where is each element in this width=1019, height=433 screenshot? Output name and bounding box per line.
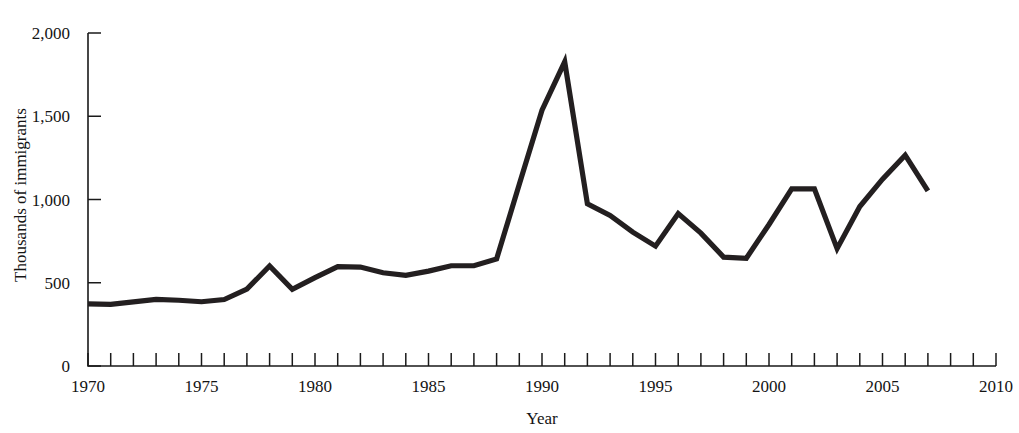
chart-canvas: 05001,0001,5002,000 19701975198019851990… bbox=[0, 0, 1019, 433]
x-tick-label: 1970 bbox=[71, 377, 105, 396]
y-axis-tick-labels: 05001,0001,5002,000 bbox=[32, 24, 70, 376]
x-tick-label: 1980 bbox=[298, 377, 332, 396]
y-tick-label: 500 bbox=[45, 274, 71, 293]
x-tick-label: 2005 bbox=[866, 377, 900, 396]
x-tick-label: 1990 bbox=[525, 377, 559, 396]
x-tick-label: 1985 bbox=[412, 377, 446, 396]
x-axis-tick-labels: 197019751980198519901995200020052010 bbox=[71, 377, 1013, 396]
y-axis-title: Thousands of immigrants bbox=[11, 108, 30, 282]
x-tick-label: 2010 bbox=[979, 377, 1013, 396]
x-axis-title: Year bbox=[526, 409, 558, 428]
y-axis-ticks bbox=[88, 33, 101, 366]
y-tick-label: 2,000 bbox=[32, 24, 70, 43]
x-tick-label: 1975 bbox=[185, 377, 219, 396]
y-tick-label: 1,000 bbox=[32, 191, 70, 210]
y-tick-label: 0 bbox=[62, 357, 71, 376]
immigration-line-chart: 05001,0001,5002,000 19701975198019851990… bbox=[0, 0, 1019, 433]
data-series-line bbox=[88, 62, 928, 305]
x-tick-label: 2000 bbox=[752, 377, 786, 396]
x-axis-ticks bbox=[88, 353, 996, 366]
x-tick-label: 1995 bbox=[639, 377, 673, 396]
y-tick-label: 1,500 bbox=[32, 107, 70, 126]
axis-lines bbox=[88, 33, 996, 366]
